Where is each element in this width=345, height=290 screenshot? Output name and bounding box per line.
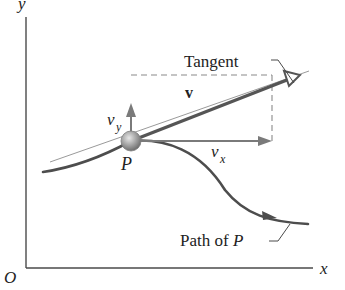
path-callout: Path of P [180, 224, 290, 250]
path-label: Path of P [180, 231, 243, 250]
tangent-callout: Tangent [184, 52, 294, 83]
vy-label-main: v [107, 110, 115, 129]
vx-label: v x [211, 142, 226, 166]
vx-arrowhead-icon [258, 136, 272, 146]
particle-ball [121, 131, 141, 151]
vy-arrowhead-icon [126, 103, 136, 117]
particle-path [43, 141, 308, 224]
path-label-var: P [232, 231, 243, 250]
velocity-arrowhead-icon [284, 71, 300, 86]
velocity-vector [131, 80, 287, 141]
vx-label-subscript: x [219, 152, 226, 166]
particle-label: P [120, 154, 132, 174]
origin-label: O [4, 268, 16, 287]
y-axis-label: y [16, 0, 26, 13]
tangent-label: Tangent [184, 52, 239, 71]
x-axis-label: x [319, 259, 328, 278]
vy-label: v y [107, 110, 122, 134]
path-leader-line [269, 224, 290, 241]
vy-label-subscript: y [115, 120, 122, 134]
path-label-prefix: Path of [180, 231, 233, 250]
velocity-label: v [185, 84, 193, 101]
velocity-tangent-diagram: y x O P v v y v x Tangent Path of P [0, 0, 345, 290]
vx-label-main: v [211, 142, 219, 161]
